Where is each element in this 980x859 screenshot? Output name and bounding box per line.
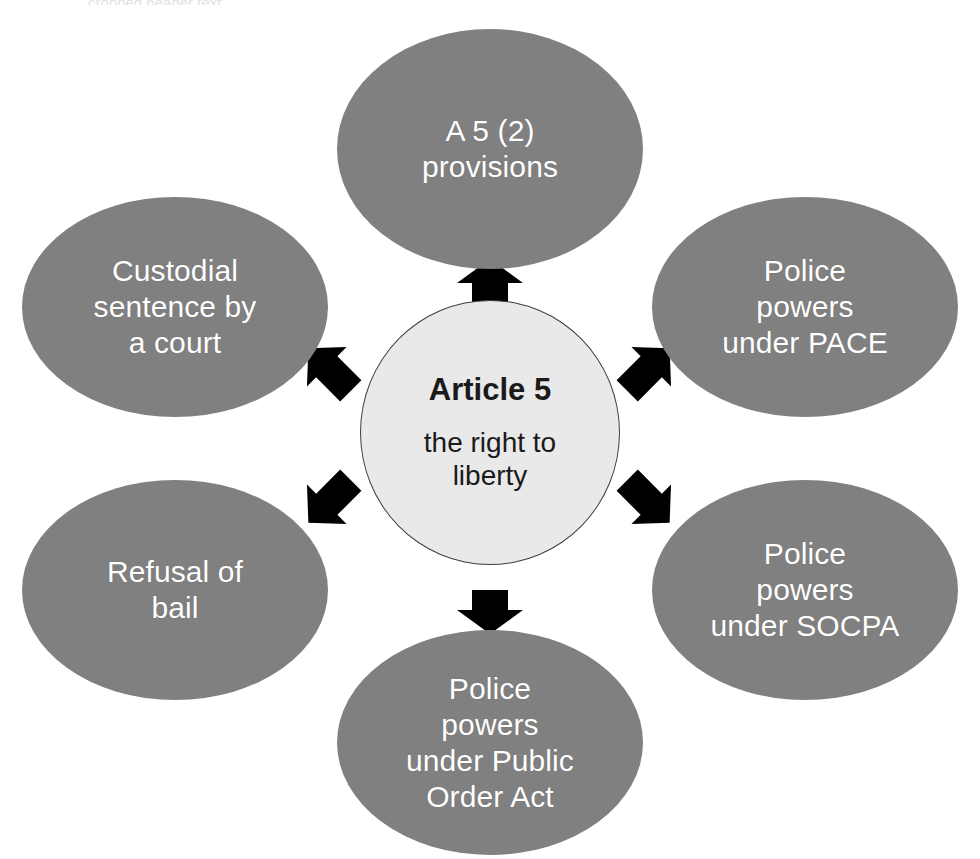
- node-police-powers-public-order-act-label: Police powers under Public Order Act: [390, 671, 590, 815]
- node-refusal-of-bail-label: Refusal of bail: [91, 554, 259, 626]
- node-police-powers-pace[interactable]: Police powers under PACE: [652, 197, 958, 417]
- arrow-down-right-icon: [616, 466, 678, 534]
- node-a5-2-provisions-label: A 5 (2) provisions: [406, 113, 574, 185]
- node-custodial-sentence-by-a-court[interactable]: Custodial sentence by a court: [22, 197, 328, 417]
- node-custodial-sentence-by-a-court-label: Custodial sentence by a court: [78, 253, 273, 361]
- cropped-header-remnant: cropped header text: [88, 0, 388, 5]
- radial-diagram: cropped header text: [0, 0, 980, 859]
- node-police-powers-socpa-label: Police powers under SOCPA: [695, 536, 916, 644]
- arrow-down-icon: [455, 588, 525, 636]
- arrow-down-left-icon: [300, 466, 362, 534]
- node-police-powers-pace-label: Police powers under PACE: [706, 253, 904, 361]
- center-title: Article 5: [429, 373, 551, 407]
- node-refusal-of-bail[interactable]: Refusal of bail: [22, 480, 328, 700]
- node-a5-2-provisions[interactable]: A 5 (2) provisions: [337, 29, 643, 269]
- center-subtitle: the right to liberty: [424, 426, 556, 492]
- node-police-powers-public-order-act[interactable]: Police powers under Public Order Act: [337, 630, 643, 855]
- node-center-article-5[interactable]: Article 5 the right to liberty: [360, 300, 620, 565]
- node-police-powers-socpa[interactable]: Police powers under SOCPA: [652, 480, 958, 700]
